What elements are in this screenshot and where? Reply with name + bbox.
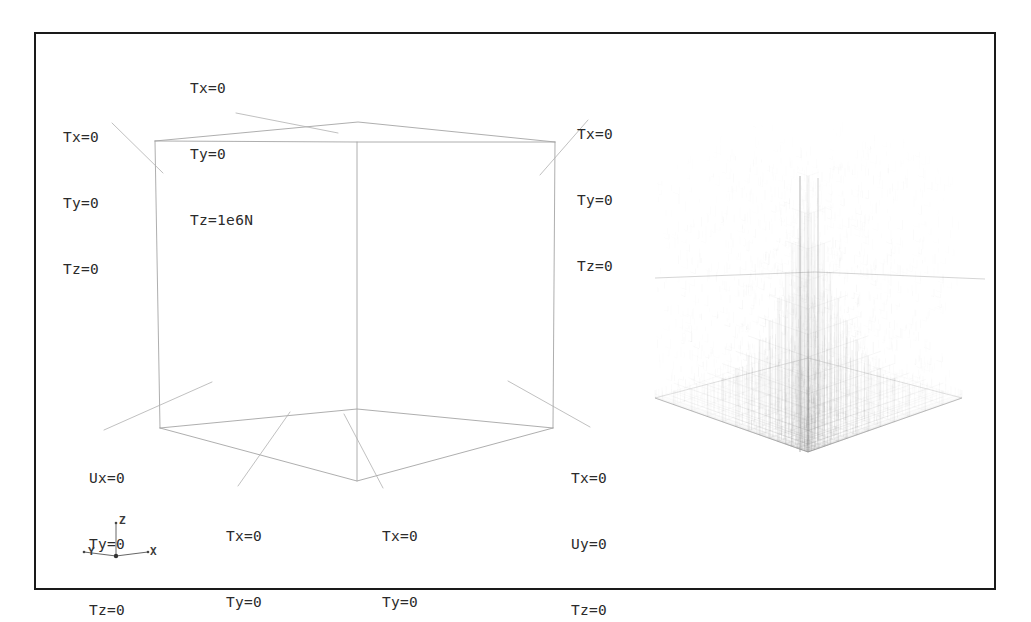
bc-line: Tz=0	[571, 599, 607, 621]
bc-label-right-rear-face: Tx=0 Ty=0 Tz=0	[577, 79, 613, 321]
bc-label-bottom-face: Tx=0 Ty=0 Uz=0	[226, 481, 262, 622]
bc-label-left-rear-face: Tx=0 Ty=0 Tz=0	[63, 82, 99, 324]
bc-line: Tx=0	[577, 123, 613, 145]
bc-line: Tx=0	[63, 126, 99, 148]
bc-line: Ty=0	[226, 591, 262, 613]
bc-label-top-face: Tx=0 Ty=0 Tz=1e6N	[190, 33, 253, 275]
figure-frame	[34, 32, 996, 590]
bc-line: Tz=0	[577, 255, 613, 277]
bc-line: Tx=0	[226, 525, 262, 547]
bc-line: Ty=0	[63, 192, 99, 214]
bc-line: Ty=0	[382, 591, 418, 613]
bc-line: Tx=0	[571, 467, 607, 489]
bc-label-right-face: Tx=0 Uy=0 Tz=0	[571, 423, 607, 622]
axis-label-z: Z	[119, 514, 126, 527]
bc-line: Tz=0	[89, 599, 125, 621]
bc-line: Tx=0	[190, 77, 253, 99]
bc-line: Uy=0	[571, 533, 607, 555]
figure-root: Tx=0 Ty=0 Tz=1e6N Tx=0 Ty=0 Tz=0 Tx=0 Ty…	[0, 0, 1031, 622]
bc-line: Tz=0	[63, 258, 99, 280]
bc-line: Ty=0	[190, 143, 253, 165]
bc-label-front-face: Tx=0 Ty=0 Tz=0	[382, 481, 418, 622]
axis-label-y: Y	[88, 545, 95, 558]
bc-line: Tz=1e6N	[190, 209, 253, 231]
bc-line: Ty=0	[577, 189, 613, 211]
bc-line: Tx=0	[382, 525, 418, 547]
axis-label-x: X	[150, 545, 157, 558]
bc-line: Ux=0	[89, 467, 125, 489]
